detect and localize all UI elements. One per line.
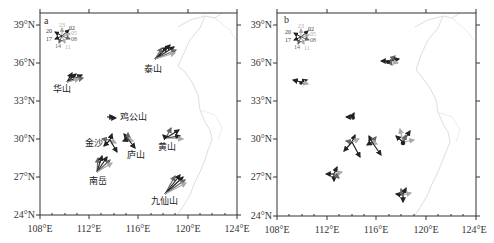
vector-cluster-huangshan [163, 128, 183, 139]
vector-cluster-nanyue [97, 156, 112, 172]
vector-cluster-huashan-b [293, 80, 308, 85]
x-labels-b: 108°E 112°E 116°E 120°E 124°E [264, 224, 486, 235]
vector-cluster-jinsha-b [344, 135, 360, 157]
y-label: 33°N [14, 95, 35, 106]
y-label: 24°N [14, 209, 35, 220]
x-labels-a: 108°E 112°E 116°E 120°E 124°E [27, 223, 249, 234]
vector-cluster-jiuxianshan [165, 175, 186, 194]
legend-hour: 20 [285, 29, 291, 35]
x-label: 112°E [77, 223, 102, 234]
panel-label-a: a [44, 15, 49, 26]
vector-cluster-jinsha [102, 134, 117, 152]
coastline [415, 13, 460, 215]
y-labels-a: 39°N 36°N 33°N 30°N 27°N 24°N [14, 19, 35, 220]
vector-cluster-lushan-b [367, 136, 381, 155]
y-label: 27°N [251, 171, 272, 182]
panel-b: 39°N 36°N 33°N 30°N 27°N 24°N 108°E 112°… [251, 9, 487, 235]
station-label-huangshan: 黄山 [158, 141, 176, 152]
x-label: 116°E [364, 224, 389, 235]
y-label: 39°N [251, 19, 272, 30]
legend-hour: 14 [55, 43, 61, 49]
station-label-taishan: 泰山 [144, 63, 162, 74]
panel-label-b: b [284, 14, 289, 25]
x-label: 124°E [461, 224, 486, 235]
y-label: 36°N [251, 57, 272, 68]
vector-cluster-nanyue-b [326, 167, 342, 181]
x-label: 120°E [175, 223, 200, 234]
legend-hour: 08 [71, 36, 77, 42]
legend-rose-b: 23 02 05 08 11 14 17 20 [285, 23, 316, 51]
x-label: 116°E [126, 223, 151, 234]
legend-hour: 11 [304, 45, 310, 51]
station-label-jigongshan: 鸡公山 [120, 111, 147, 122]
panel-a: 39°N 36°N 33°N 30°N 27°N 24°N 108°E 112°… [14, 9, 250, 234]
legend-hour: 23 [59, 22, 65, 28]
x-label: 112°E [315, 224, 340, 235]
y-label: 39°N [14, 19, 35, 30]
vector-cluster-huashan [67, 73, 83, 82]
x-label: 124°E [224, 223, 249, 234]
y-label: 30°N [251, 133, 272, 144]
y-label: 24°N [251, 210, 272, 221]
vector-cluster-huangshan-b [396, 129, 414, 145]
vector-cluster-jigongshan-b [346, 113, 355, 120]
vector-cluster-jigongshan [107, 117, 116, 118]
y-label: 30°N [14, 133, 35, 144]
y-ticks-b [273, 25, 480, 216]
x-label: 120°E [413, 224, 438, 235]
legend-hour: 08 [310, 37, 316, 43]
legend-hour: 17 [285, 37, 291, 43]
legend-hour: 20 [46, 28, 52, 34]
vector-cluster-taishan-b [381, 56, 399, 65]
station-label-lushan: 庐山 [127, 149, 145, 160]
y-label: 36°N [14, 57, 35, 68]
station-label-huashan: 华山 [53, 83, 71, 94]
legend-hour: 14 [294, 44, 300, 50]
vector-cluster-jiuxianshan-b [396, 188, 411, 202]
y-label: 27°N [14, 171, 35, 182]
y-labels-b: 39°N 36°N 33°N 30°N 27°N 24°N [251, 19, 272, 221]
station-label-nanyue: 南岳 [89, 175, 107, 186]
coastline-inland [438, 18, 474, 142]
legend-hour: 17 [46, 36, 52, 42]
x-label: 108°E [27, 223, 52, 234]
station-label-jinsha: 金沙 [85, 137, 103, 148]
legend-hour: 11 [65, 44, 71, 50]
vector-cluster-lushan [123, 133, 135, 148]
legend-rose-a: 23 02 05 08 11 14 17 20 [46, 22, 77, 50]
x-label: 108°E [264, 224, 289, 235]
figure: 39°N 36°N 33°N 30°N 27°N 24°N 108°E 112°… [0, 0, 494, 243]
vector-cluster-taishan [155, 45, 176, 59]
station-label-jiuxianshan: 九仙山 [151, 195, 178, 206]
y-label: 33°N [251, 95, 272, 106]
legend-hour: 23 [298, 23, 304, 29]
